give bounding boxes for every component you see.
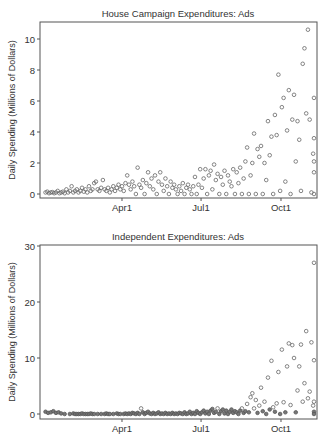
data-point <box>99 186 103 190</box>
data-point <box>172 183 176 187</box>
data-point <box>312 160 316 164</box>
data-point <box>245 402 249 406</box>
data-point <box>280 105 284 109</box>
data-point <box>287 342 291 346</box>
data-point <box>186 183 190 187</box>
data-point <box>99 412 103 416</box>
data-point <box>160 183 164 187</box>
data-point <box>271 405 275 409</box>
chart-title: Independent Expenditures: Ads <box>112 231 244 242</box>
data-point <box>252 132 256 136</box>
x-axis: Apr1Jul1Oct1 <box>112 198 291 213</box>
data-point <box>261 192 265 196</box>
data-point <box>242 177 246 181</box>
data-point <box>205 192 209 196</box>
data-point <box>237 181 241 185</box>
data-point <box>226 174 230 178</box>
data-point <box>204 167 208 171</box>
y-axis-label: Daily Spending (Millions of Dollars) <box>7 40 17 180</box>
data-point <box>139 186 143 190</box>
data-point <box>304 329 308 333</box>
data-point <box>216 172 220 176</box>
data-point <box>191 184 195 188</box>
data-point <box>277 370 281 374</box>
data-point <box>59 412 63 416</box>
data-point <box>249 174 253 178</box>
y-axis: 0102030 <box>24 241 40 420</box>
data-point <box>178 184 182 188</box>
data-point <box>290 343 294 347</box>
data-point <box>230 184 234 188</box>
data-point <box>257 404 261 408</box>
data-point <box>310 341 314 345</box>
data-point <box>303 381 307 385</box>
chart-house-campaign: House Campaign Expenditures: Ads Daily S… <box>7 8 317 213</box>
data-point <box>294 160 298 164</box>
y-tick-label: 30 <box>24 241 35 252</box>
data-point <box>132 184 136 188</box>
data-point <box>256 411 260 415</box>
x-tick-label: Apr1 <box>112 202 132 213</box>
chart-title: House Campaign Expenditures: Ads <box>102 8 255 19</box>
data-point <box>247 192 251 196</box>
data-point <box>304 112 308 116</box>
data-point <box>289 192 293 196</box>
x-tick-label: Oct1 <box>271 202 291 213</box>
data-point <box>129 188 133 192</box>
data-point <box>176 192 180 196</box>
data-point <box>214 178 218 182</box>
data-point <box>285 365 289 369</box>
data-point <box>198 167 202 171</box>
data-point <box>244 160 248 164</box>
data-point <box>275 402 279 406</box>
data-point <box>145 181 149 185</box>
data-point <box>108 412 112 416</box>
x-tick-label: Jul1 <box>192 202 209 213</box>
data-point <box>224 192 228 196</box>
y-tick-label: 6 <box>30 96 35 107</box>
data-point <box>297 138 301 142</box>
data-point <box>273 410 277 414</box>
data-point <box>308 390 312 394</box>
data-point <box>292 356 296 360</box>
data-point <box>146 171 150 175</box>
data-point <box>308 118 312 122</box>
data-point <box>254 398 258 402</box>
data-point <box>282 96 286 100</box>
data-point <box>219 175 223 179</box>
data-point <box>296 389 300 393</box>
data-point <box>63 412 67 416</box>
y-axis: 0246810 <box>24 34 40 200</box>
data-point <box>284 180 288 184</box>
x-axis: Apr1Jul1Oct1 <box>112 419 291 434</box>
data-point <box>101 178 105 182</box>
data-point <box>87 184 91 188</box>
data-point <box>143 192 147 196</box>
data-point <box>282 400 286 404</box>
data-point <box>297 365 301 369</box>
data-point <box>112 412 116 416</box>
data-point <box>290 118 294 122</box>
data-point <box>138 412 142 416</box>
data-point <box>263 161 267 165</box>
data-point <box>301 62 305 66</box>
data-point <box>211 407 215 411</box>
data-point <box>284 411 288 415</box>
data-point <box>118 412 122 416</box>
data-point <box>245 146 249 150</box>
data-point <box>151 188 155 192</box>
y-tick-label: 10 <box>24 34 35 45</box>
data-point <box>275 133 279 137</box>
data-point <box>231 167 235 171</box>
data-point <box>68 412 72 416</box>
data-point <box>271 192 275 196</box>
data-point <box>312 412 316 416</box>
data-point <box>190 192 194 196</box>
data-point <box>238 166 242 170</box>
data-point <box>223 169 227 173</box>
data-point <box>252 407 256 411</box>
data-point <box>266 376 270 380</box>
data-point <box>202 177 206 181</box>
data-point <box>294 411 298 415</box>
data-point <box>218 192 222 196</box>
